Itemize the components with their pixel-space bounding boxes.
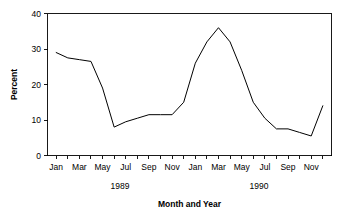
x-axis (48, 156, 332, 160)
line-chart: 010203040 JanMarMayJulSepNovJanMarMayJul… (0, 0, 348, 215)
x-axis-title: Month and Year (158, 199, 222, 209)
y-axis (44, 14, 48, 156)
year-label: 1989 (110, 181, 129, 191)
y-tick-label: 20 (32, 80, 42, 90)
y-axis-title: Percent (9, 69, 19, 100)
year-label: 1990 (250, 181, 269, 191)
x-tick-label: Mar (72, 162, 87, 172)
x-tick-label: Jan (49, 162, 63, 172)
x-tick-label: May (95, 162, 112, 172)
data-series-line (56, 28, 323, 136)
y-tick-label: 0 (36, 151, 41, 161)
y-tick-label: 30 (32, 44, 42, 54)
x-tick-label: Jul (120, 162, 131, 172)
x-tick-label: Jul (259, 162, 270, 172)
y-tick-labels: 010203040 (32, 9, 42, 161)
x-tick-label: Jan (188, 162, 202, 172)
x-tick-labels: JanMarMayJulSepNovJanMarMayJulSepNov (49, 162, 319, 172)
x-tick-label: Nov (165, 162, 181, 172)
year-group-labels: 19891990 (110, 181, 268, 191)
x-tick-label: May (234, 162, 251, 172)
y-tick-label: 40 (32, 9, 42, 19)
plot-frame (48, 14, 332, 156)
x-tick-label: Nov (304, 162, 320, 172)
chart-figure: 010203040 JanMarMayJulSepNovJanMarMayJul… (0, 0, 348, 215)
x-tick-label: Mar (211, 162, 226, 172)
y-tick-marks (44, 14, 48, 156)
x-tick-label: Sep (141, 162, 156, 172)
x-tick-label: Sep (280, 162, 295, 172)
x-tick-marks (56, 156, 323, 160)
y-tick-label: 10 (32, 115, 42, 125)
